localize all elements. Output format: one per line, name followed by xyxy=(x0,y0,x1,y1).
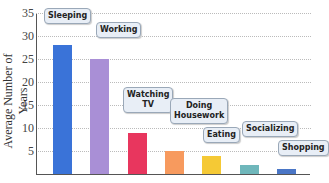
y-tick-label: 35 xyxy=(12,6,34,21)
bar-callout-label: WatchingTV xyxy=(123,87,173,113)
x-axis xyxy=(36,174,310,175)
bar-shopping xyxy=(277,169,296,174)
bar-watching-tv xyxy=(128,133,147,174)
y-tick-label: 10 xyxy=(12,121,34,136)
bar-callout-label: Socializing xyxy=(242,121,298,137)
bar-callout-label: Working xyxy=(96,22,141,38)
gridline xyxy=(36,36,311,37)
y-axis xyxy=(36,14,37,174)
bar-working xyxy=(90,59,109,174)
bar-callout-label: Sleeping xyxy=(44,8,91,24)
y-tick-label: 5 xyxy=(12,144,34,159)
bar-sleeping xyxy=(53,45,72,174)
y-tick-label: 25 xyxy=(12,52,34,67)
y-tick-label: 15 xyxy=(12,98,34,113)
y-tick-label: 30 xyxy=(12,29,34,44)
bar-socializing xyxy=(240,165,259,174)
gridline xyxy=(36,59,311,60)
gridline xyxy=(36,82,311,83)
bar-callout-label: Eating xyxy=(203,127,240,143)
bar-doing-housework xyxy=(165,151,184,174)
bar-eating xyxy=(202,156,221,174)
bar-callout-label: Shopping xyxy=(278,140,329,156)
bar-callout-label: DoingHousework xyxy=(170,98,228,124)
y-tick-label: 20 xyxy=(12,75,34,90)
